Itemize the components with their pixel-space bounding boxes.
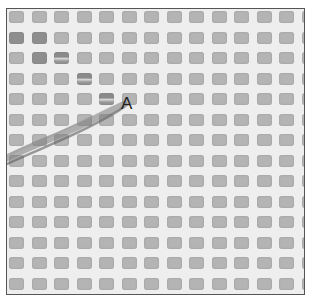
mesh-cell	[32, 32, 47, 44]
mesh-cell	[189, 11, 204, 23]
mesh-cell	[54, 278, 69, 290]
mesh-cell	[234, 52, 249, 64]
mesh-cell	[122, 237, 137, 249]
mesh-cell	[54, 32, 69, 44]
mesh-cell	[32, 52, 47, 64]
mesh-cell	[167, 134, 182, 146]
mesh-cell	[32, 237, 47, 249]
mesh-cell	[99, 93, 114, 105]
mesh-cell	[279, 155, 294, 167]
mesh-cell	[77, 155, 92, 167]
mesh-cell	[9, 196, 24, 208]
mesh-cell	[279, 216, 294, 228]
mesh-cell	[144, 73, 159, 85]
mesh-cell	[257, 73, 272, 85]
mesh-cell	[99, 175, 114, 187]
mesh-cell	[257, 155, 272, 167]
mesh-cell	[234, 175, 249, 187]
mesh-cell	[302, 11, 306, 23]
mesh-cell	[32, 155, 47, 167]
mesh-cell	[234, 278, 249, 290]
mesh-cell	[122, 11, 137, 23]
mesh-cell	[122, 278, 137, 290]
mesh-cell	[32, 216, 47, 228]
mesh-cell	[54, 93, 69, 105]
mesh-cell	[302, 32, 306, 44]
mesh-grid	[7, 9, 304, 294]
mesh-cell	[302, 73, 306, 85]
mesh-cell	[279, 73, 294, 85]
mesh-cell	[54, 216, 69, 228]
mesh-cell	[9, 175, 24, 187]
mesh-cell	[234, 32, 249, 44]
mesh-cell	[32, 257, 47, 269]
mesh-cell	[279, 278, 294, 290]
mesh-cell	[54, 114, 69, 126]
mesh-cell	[77, 237, 92, 249]
mesh-cell	[99, 134, 114, 146]
mesh-cell	[54, 196, 69, 208]
mesh-cell	[9, 237, 24, 249]
mesh-cell	[189, 134, 204, 146]
mesh-cell	[257, 196, 272, 208]
mesh-cell	[144, 11, 159, 23]
mesh-cell	[279, 134, 294, 146]
mesh-cell	[122, 52, 137, 64]
mesh-cell	[234, 134, 249, 146]
mesh-cell	[189, 52, 204, 64]
mesh-cell	[32, 73, 47, 85]
mesh-cell	[77, 11, 92, 23]
mesh-cell	[257, 11, 272, 23]
mesh-cell	[234, 93, 249, 105]
mesh-cell	[9, 134, 24, 146]
mesh-cell	[279, 257, 294, 269]
mesh-cell	[279, 52, 294, 64]
mesh-cell	[279, 175, 294, 187]
mesh-cell	[189, 237, 204, 249]
mesh-cell	[99, 155, 114, 167]
mesh-cell	[302, 237, 306, 249]
mesh-cell	[32, 93, 47, 105]
mesh-cell	[9, 73, 24, 85]
mesh-cell	[99, 32, 114, 44]
mesh-cell	[234, 196, 249, 208]
mesh-cell	[167, 114, 182, 126]
mesh-cell	[212, 257, 227, 269]
mesh-cell	[77, 114, 92, 126]
mesh-cell	[212, 278, 227, 290]
mesh-cell	[9, 93, 24, 105]
mesh-cell	[212, 134, 227, 146]
mesh-cell	[167, 73, 182, 85]
mesh-cell	[189, 73, 204, 85]
mesh-cell	[9, 216, 24, 228]
mesh-cell	[54, 52, 69, 64]
mesh-cell	[167, 278, 182, 290]
mesh-cell	[279, 32, 294, 44]
mesh-cell	[302, 196, 306, 208]
mesh-cell	[189, 32, 204, 44]
mesh-cell	[302, 52, 306, 64]
mesh-cell	[99, 257, 114, 269]
mesh-cell	[54, 134, 69, 146]
mesh-cell	[302, 175, 306, 187]
mesh-cell	[279, 11, 294, 23]
mesh-cell	[167, 11, 182, 23]
mesh-cell	[212, 237, 227, 249]
mesh-cell	[54, 175, 69, 187]
mesh-cell	[99, 237, 114, 249]
mesh-cell	[9, 11, 24, 23]
mesh-cell	[167, 32, 182, 44]
mesh-cell	[212, 175, 227, 187]
mesh-cell	[99, 114, 114, 126]
mesh-cell	[212, 155, 227, 167]
mesh-cell	[144, 257, 159, 269]
mesh-cell	[144, 93, 159, 105]
image-frame: A	[6, 8, 305, 295]
mesh-cell	[167, 52, 182, 64]
mesh-cell	[99, 278, 114, 290]
mesh-cell	[9, 155, 24, 167]
mesh-cell	[257, 278, 272, 290]
mesh-cell	[77, 93, 92, 105]
mesh-cell	[189, 257, 204, 269]
mesh-cell	[189, 114, 204, 126]
